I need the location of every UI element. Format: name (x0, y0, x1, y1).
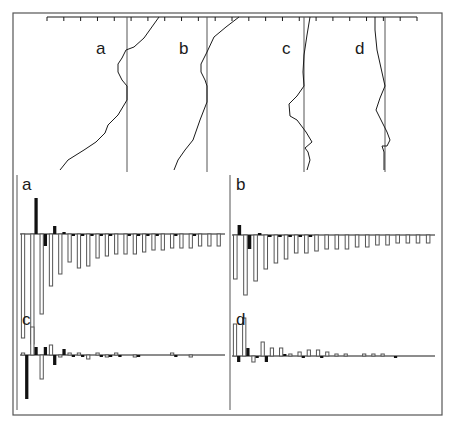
bar-gray-a (77, 234, 80, 268)
bar-gray-b (396, 235, 400, 243)
bar-black-c (72, 355, 75, 357)
bar-gray-d (335, 354, 338, 356)
bar-black-b (248, 235, 252, 249)
bar-gray-d (316, 350, 319, 356)
profile-curve-a (60, 17, 159, 170)
bar-gray-d (372, 354, 375, 356)
bar-gray-b (315, 235, 319, 251)
bar-gray-b (335, 235, 339, 249)
bar-gray-b (325, 235, 329, 249)
bar-gray-a (68, 234, 71, 262)
bar-black-b (298, 235, 302, 237)
bar-black-c (25, 355, 28, 399)
bar-gray-c (21, 353, 24, 355)
bar-gray-c (68, 353, 71, 355)
bar-gray-b (294, 235, 298, 253)
bar-black-d (265, 356, 268, 362)
bar-black-a (137, 234, 140, 236)
profile-label-b: b (179, 40, 188, 57)
bar-black-a (90, 234, 93, 236)
bar-black-b (309, 235, 313, 237)
bar-black-d (302, 356, 305, 358)
bar-gray-a (105, 234, 108, 256)
bar-gray-a (180, 234, 183, 248)
bar-black-c (81, 355, 84, 357)
bar-black-d (320, 356, 323, 358)
bar-gray-a (49, 234, 52, 286)
bar-gray-b (386, 235, 390, 245)
bar-gray-b (416, 235, 420, 243)
bar-black-a (81, 234, 84, 236)
bar-gray-a (208, 234, 211, 246)
bar-gray-c (59, 355, 62, 357)
bar-black-a (146, 234, 149, 236)
bar-gray-d (289, 354, 292, 356)
bar-gray-a (198, 234, 201, 246)
bar-gray-a (170, 234, 173, 248)
profile-label-c: c (282, 40, 291, 57)
figure-canvas (0, 0, 453, 428)
bar-black-d (283, 354, 286, 356)
bar-black-a (53, 226, 56, 234)
bar-panel-label-c: c (22, 311, 31, 328)
bar-black-a (34, 198, 37, 234)
bar-gray-a (115, 234, 118, 254)
bar-gray-b (264, 235, 268, 269)
bar-gray-c (133, 355, 136, 357)
bar-gray-a (217, 234, 220, 246)
bar-gray-b (355, 235, 359, 247)
bar-black-d (246, 348, 249, 356)
bar-gray-a (124, 234, 127, 254)
bar-gray-d (363, 354, 366, 356)
bar-gray-c (49, 345, 52, 355)
bar-gray-c (96, 353, 99, 355)
bar-gray-c (40, 355, 43, 379)
bar-gray-c (87, 355, 90, 359)
bar-gray-b (254, 235, 258, 281)
bar-gray-a (143, 234, 146, 252)
bar-gray-d (252, 356, 255, 362)
bar-gray-b (284, 235, 288, 259)
bar-gray-c (77, 353, 80, 355)
bar-gray-b (274, 235, 278, 263)
bar-black-d (237, 356, 240, 362)
bar-black-b (268, 235, 272, 237)
bar-gray-b (234, 235, 238, 279)
bar-black-b (238, 225, 242, 235)
bar-gray-b (345, 235, 349, 249)
bar-gray-a (96, 234, 99, 258)
bar-black-c (109, 355, 112, 357)
profile-label-d: d (355, 40, 364, 57)
bar-gray-b (406, 235, 410, 243)
bar-gray-a (189, 234, 192, 248)
bar-gray-c (31, 327, 34, 355)
bar-gray-d (298, 352, 301, 356)
bar-black-a (44, 234, 47, 246)
bar-black-a (62, 232, 65, 234)
profile-curve-d (375, 17, 390, 170)
bar-panel-label-a: a (22, 176, 31, 193)
bar-gray-b (426, 235, 430, 243)
bar-gray-a (40, 234, 43, 314)
bar-gray-a (152, 234, 155, 250)
profile-curve-c (289, 17, 312, 170)
bar-black-c (100, 355, 103, 357)
bar-black-c (62, 349, 65, 355)
bar-gray-d (280, 348, 283, 356)
bar-gray-a (87, 234, 90, 266)
bar-gray-b (376, 235, 380, 245)
bar-black-a (193, 234, 196, 236)
bar-black-a (156, 234, 159, 236)
bar-gray-c (189, 355, 192, 357)
bar-black-b (258, 233, 262, 235)
bar-gray-c (170, 353, 173, 355)
bar-panel-label-d: d (236, 311, 245, 328)
bar-black-a (174, 234, 177, 236)
bar-gray-d (344, 354, 347, 356)
bar-gray-b (244, 235, 248, 295)
bar-black-c (34, 347, 37, 355)
bar-gray-c (105, 355, 108, 357)
bar-gray-c (115, 353, 118, 355)
bar-black-b (278, 235, 282, 237)
bar-black-c (44, 347, 47, 355)
